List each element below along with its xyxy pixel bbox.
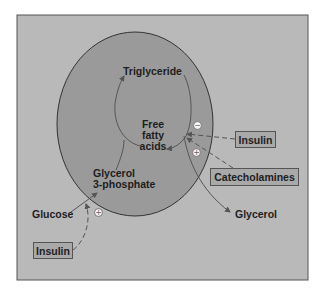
catecholamines-box: Catecholamines <box>210 168 299 186</box>
plus-sign-icon: + <box>192 148 201 157</box>
glycerol-label: Glycerol <box>235 209 277 220</box>
insulin-box-right: Insulin <box>235 131 276 148</box>
glycerol-3-phosphate-label: Glycerol 3-phosphate <box>93 168 155 190</box>
ffa-line-3: acids <box>135 141 171 152</box>
g3p-line-2: 3-phosphate <box>93 179 155 190</box>
minus-sign-icon: − <box>193 121 202 130</box>
glucose-label: Glucose <box>32 209 73 220</box>
free-fatty-acids-label: Free fatty acids <box>135 119 171 152</box>
triglyceride-label: Triglyceride <box>123 66 182 77</box>
plus-sign-icon-glucose: + <box>94 208 103 217</box>
adipocyte-lipolysis-diagram: Triglyceride Free fatty acids Glycerol 3… <box>0 0 326 296</box>
insulin-box-bottom: Insulin <box>33 242 73 259</box>
